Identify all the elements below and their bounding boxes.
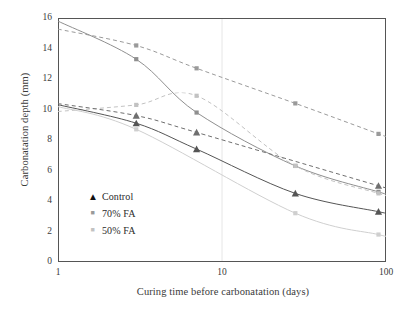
x-axis-label: Curing time before carbonatation (days)	[58, 286, 388, 297]
square-marker-icon: ■	[88, 227, 97, 234]
x-tick-100: 100	[366, 268, 406, 278]
y-tick-2: 2	[26, 227, 52, 237]
x-tick-1: 1	[38, 268, 78, 278]
data-point	[375, 182, 382, 189]
y-tick-16: 16	[26, 13, 52, 23]
data-point	[134, 43, 138, 47]
data-point	[193, 146, 200, 153]
data-point	[376, 191, 380, 195]
data-point	[293, 101, 297, 105]
legend-label: 50% FA	[102, 225, 135, 236]
data-point	[134, 57, 138, 61]
data-point	[194, 94, 198, 98]
legend-item-70-fa: ■70% FA	[88, 205, 135, 222]
chart-legend: ▲Control■70% FA■50% FA	[88, 188, 135, 239]
y-tick-8: 8	[26, 135, 52, 145]
data-point	[376, 132, 380, 136]
carbonatation-depth-chart: Carbonatation depth (mm) Curing time bef…	[0, 0, 407, 311]
square-marker-icon: ■	[88, 210, 97, 217]
data-point	[376, 232, 380, 236]
y-tick-10: 10	[26, 105, 52, 115]
data-point	[194, 110, 198, 114]
y-tick-14: 14	[26, 44, 52, 54]
legend-label: Control	[102, 191, 133, 202]
y-tick-6: 6	[26, 166, 52, 176]
y-tick-12: 12	[26, 74, 52, 84]
triangle-marker-icon: ▲	[88, 192, 97, 202]
data-point-markers	[133, 43, 382, 236]
data-point	[293, 211, 297, 215]
data-point	[293, 164, 297, 168]
data-point	[134, 127, 138, 131]
data-point	[193, 129, 200, 136]
legend-item-control: ▲Control	[88, 188, 135, 205]
data-point	[134, 103, 138, 107]
data-point	[194, 66, 198, 70]
data-point	[133, 112, 140, 119]
y-tick-0: 0	[26, 257, 52, 267]
y-tick-4: 4	[26, 196, 52, 206]
data-point	[133, 120, 140, 127]
data-point	[292, 190, 299, 197]
x-tick-10: 10	[202, 268, 242, 278]
legend-label: 70% FA	[102, 208, 135, 219]
legend-item-50-fa: ■50% FA	[88, 222, 135, 239]
